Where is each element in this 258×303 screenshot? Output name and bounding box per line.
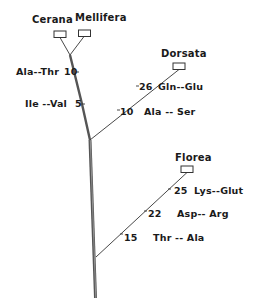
phylogenetic-tree	[0, 0, 258, 303]
mellifera-box	[79, 30, 91, 37]
florea-sub-change-1: Lys--Glut	[194, 186, 243, 196]
florea-sub-change-3: Thr -- Ala	[153, 233, 204, 243]
trunk-sub-change-2: Ile --Val	[25, 99, 67, 109]
dorsata-sub-change-1: Gln--Glu	[158, 82, 203, 92]
dorsata-sub-change-2: Ala -- Ser	[144, 107, 196, 117]
mellifera-label: Mellifera	[75, 13, 127, 23]
mellifera-branch	[70, 37, 84, 56]
trunk-sub-pos-1: 10	[64, 67, 78, 77]
trunk-sub-pos-2: 5	[75, 99, 82, 109]
florea-sub-pos-3: 15	[124, 233, 138, 243]
dorsata-sub-pos-2: 10	[120, 107, 134, 117]
florea-sub-change-2: Asp-- Arg	[177, 209, 229, 219]
cerana-branch	[60, 38, 70, 56]
dorsata-label: Dorsata	[161, 49, 207, 59]
dorsata-sub-pos-1: 26	[139, 82, 153, 92]
florea-sub-pos-1: 25	[174, 186, 188, 196]
trunk-sub-change-1: Ala--Thr	[16, 67, 59, 77]
cerana-box	[54, 31, 66, 38]
florea-box	[181, 166, 193, 173]
florea-sub-pos-2: 22	[148, 209, 162, 219]
florea-label: Florea	[175, 153, 212, 163]
cerana-label: Cerana	[32, 15, 73, 25]
dorsata-box	[173, 63, 185, 70]
